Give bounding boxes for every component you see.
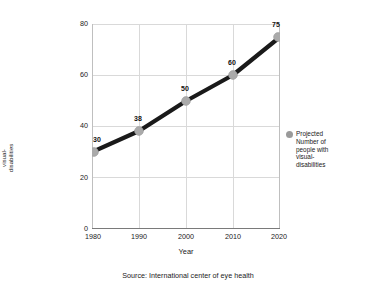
legend-label-line: Number of	[296, 138, 328, 146]
source-note: Source: International center of eye heal…	[0, 271, 376, 280]
legend-label-line: people with	[296, 146, 328, 154]
line-chart: Projected Number of people with visual- …	[0, 0, 376, 293]
x-tick-label: 1990	[119, 233, 159, 241]
legend-label-line: visual-	[296, 153, 328, 161]
legend-marker-icon	[286, 131, 293, 138]
x-axis-title: Year	[92, 247, 280, 256]
x-tick-label: 1980	[73, 233, 113, 241]
legend-label-line: Projected	[296, 130, 328, 138]
x-tick-label: 2010	[213, 233, 253, 241]
x-tick-label: 2000	[166, 233, 206, 241]
legend-label-line: disabilities	[296, 161, 328, 169]
legend: Projected Number of people with visual- …	[286, 130, 328, 169]
legend-item: Projected Number of people with visual- …	[296, 130, 328, 169]
x-tick-label: 2020	[259, 233, 299, 241]
